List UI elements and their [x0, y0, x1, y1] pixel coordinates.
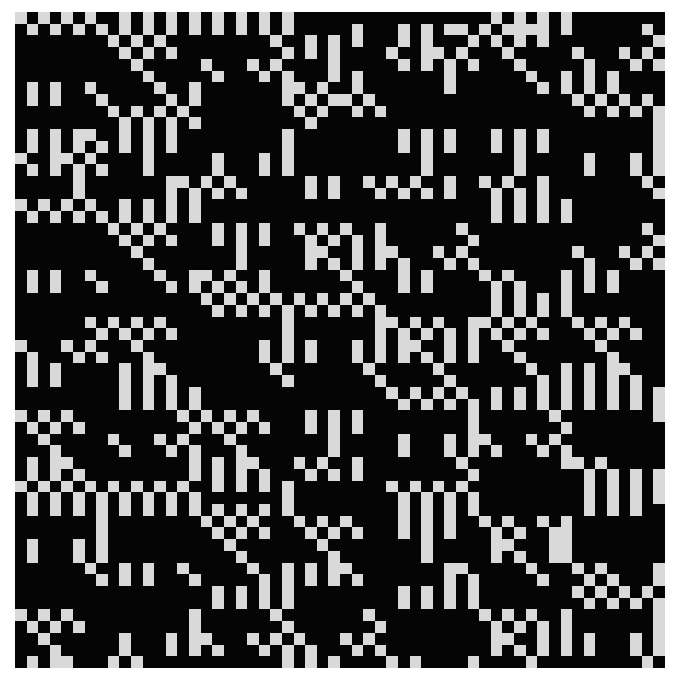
grid-cell: [340, 563, 352, 575]
grid-cell: [201, 527, 213, 539]
grid-cell: [514, 504, 526, 516]
grid-cell: [340, 35, 352, 47]
grid-cell: [189, 551, 201, 563]
grid-cell: [305, 434, 317, 446]
grid-cell: [282, 574, 294, 586]
grid-cell: [154, 94, 166, 106]
grid-cell: [259, 551, 271, 563]
grid-cell: [433, 551, 445, 563]
grid-cell: [421, 188, 433, 200]
grid-cell: [619, 153, 631, 165]
grid-cell: [340, 445, 352, 457]
grid-cell: [468, 246, 480, 258]
grid-cell: [352, 153, 364, 165]
grid-cell: [502, 317, 514, 329]
grid-cell: [73, 24, 85, 36]
grid-cell: [468, 375, 480, 387]
grid-cell: [282, 445, 294, 457]
grid-cell: [108, 609, 120, 621]
grid-cell: [177, 223, 189, 235]
grid-cell: [61, 434, 73, 446]
grid-cell: [619, 270, 631, 282]
grid-cell: [38, 352, 50, 364]
grid-cell: [50, 94, 62, 106]
grid-cell: [630, 71, 642, 83]
grid-cell: [386, 59, 398, 71]
grid-cell: [572, 235, 584, 247]
grid-cell: [247, 481, 259, 493]
grid-cell: [282, 258, 294, 270]
grid-cell: [119, 199, 131, 211]
grid-cell: [85, 35, 97, 47]
grid-cell: [514, 656, 526, 668]
grid-cell: [143, 117, 155, 129]
grid-cell: [259, 352, 271, 364]
grid-cell: [143, 551, 155, 563]
grid-cell: [236, 621, 248, 633]
grid-cell: [561, 223, 573, 235]
grid-cell: [653, 352, 665, 364]
grid-cell: [491, 117, 503, 129]
grid-cell: [38, 153, 50, 165]
grid-cell: [549, 235, 561, 247]
grid-cell: [363, 621, 375, 633]
grid-cell: [166, 281, 178, 293]
grid-cell: [294, 328, 306, 340]
grid-cell: [607, 539, 619, 551]
grid-cell: [456, 258, 468, 270]
grid-cell: [386, 481, 398, 493]
grid-cell: [282, 410, 294, 422]
grid-cell: [526, 363, 538, 375]
grid-cell: [154, 539, 166, 551]
grid-cell: [177, 82, 189, 94]
grid-cell: [630, 469, 642, 481]
grid-cell: [73, 352, 85, 364]
grid-cell: [433, 188, 445, 200]
grid-cell: [653, 328, 665, 340]
grid-cell: [166, 504, 178, 516]
grid-cell: [50, 270, 62, 282]
grid-cell: [50, 82, 62, 94]
grid-cell: [236, 59, 248, 71]
grid-cell: [363, 399, 375, 411]
grid-cell: [189, 141, 201, 153]
grid-cell: [653, 35, 665, 47]
grid-cell: [224, 293, 236, 305]
grid-cell: [177, 35, 189, 47]
grid-cell: [444, 434, 456, 446]
grid-cell: [398, 82, 410, 94]
grid-cell: [595, 47, 607, 59]
grid-cell: [630, 481, 642, 493]
grid-cell: [328, 106, 340, 118]
grid-cell: [305, 153, 317, 165]
grid-cell: [328, 551, 340, 563]
grid-cell: [224, 106, 236, 118]
grid-cell: [386, 129, 398, 141]
grid-cell: [444, 117, 456, 129]
grid-cell: [491, 47, 503, 59]
grid-cell: [96, 188, 108, 200]
grid-cell: [38, 516, 50, 528]
grid-cell: [502, 352, 514, 364]
grid-cell: [282, 59, 294, 71]
grid-cell: [73, 598, 85, 610]
grid-cell: [444, 481, 456, 493]
grid-cell: [294, 598, 306, 610]
grid-cell: [363, 434, 375, 446]
grid-cell: [201, 82, 213, 94]
grid-cell: [456, 141, 468, 153]
grid-cell: [61, 153, 73, 165]
grid-cell: [352, 481, 364, 493]
grid-cell: [491, 469, 503, 481]
grid-cell: [212, 363, 224, 375]
grid-cell: [433, 621, 445, 633]
grid-cell: [154, 504, 166, 516]
grid-cell: [27, 457, 39, 469]
grid-cell: [85, 153, 97, 165]
grid-cell: [96, 387, 108, 399]
grid-cell: [154, 176, 166, 188]
grid-cell: [247, 71, 259, 83]
grid-cell: [444, 12, 456, 24]
grid-cell: [375, 188, 387, 200]
grid-cell: [328, 176, 340, 188]
